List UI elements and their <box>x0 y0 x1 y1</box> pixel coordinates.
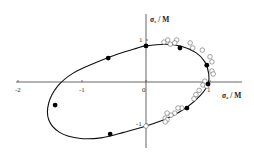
open-data-point <box>210 60 215 65</box>
open-data-point <box>211 72 216 77</box>
open-data-point <box>200 48 205 53</box>
open-data-point <box>197 88 202 93</box>
filled-data-point <box>53 103 58 108</box>
filled-data-point <box>144 43 149 48</box>
filled-data-point <box>185 106 190 111</box>
open-data-point <box>173 41 178 46</box>
open-data-point <box>192 97 197 102</box>
x-tick-label: 0 <box>142 86 146 94</box>
x-axis-label: σ₂ / M <box>222 91 241 100</box>
open-data-point <box>163 120 168 125</box>
filled-data-point <box>204 63 209 68</box>
filled-data-point <box>106 56 111 61</box>
open-data-point <box>168 42 173 47</box>
open-data-point <box>165 38 170 43</box>
open-data-point <box>188 41 193 46</box>
open-data-point <box>176 106 181 111</box>
filled-data-point <box>206 82 211 87</box>
filled-data-point <box>108 132 113 137</box>
x-tick-label: -1 <box>79 86 85 94</box>
open-data-point <box>208 55 213 60</box>
filled-data-point <box>178 46 183 51</box>
chart: -2-101 1-1 σ₁ / M σ₂ / M <box>0 0 254 153</box>
x-tick-label: -2 <box>15 86 21 94</box>
fitted-curve <box>47 44 209 139</box>
y-axis-label: σ₁ / M <box>150 15 169 24</box>
open-data-point <box>144 124 149 129</box>
y-tick-label: 1 <box>139 36 143 44</box>
data-points <box>53 38 216 137</box>
open-data-point <box>165 111 170 116</box>
y-tick-label: -1 <box>136 120 142 128</box>
open-data-point <box>190 46 195 51</box>
open-data-point <box>194 92 199 97</box>
